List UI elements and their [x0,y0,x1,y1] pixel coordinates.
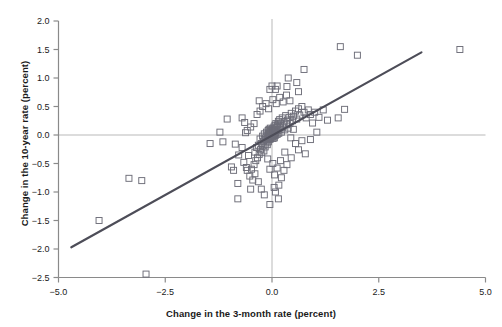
y-tick-label: 0.5 [37,102,50,112]
scatter-plot-figure: −2.5−2.0−1.5−1.0−0.50.00.51.01.52.0 −5.0… [0,0,502,327]
data-point-marker [256,98,262,104]
y-tick-label: −1.0 [32,187,50,197]
y-tick-label: 0.0 [37,130,50,140]
data-point-marker [294,80,300,86]
data-point-marker [261,192,267,198]
data-point-marker [301,66,307,72]
data-point-marker [139,178,145,184]
data-point-marker [457,47,463,53]
data-point-marker [305,107,311,113]
data-point-marker [285,75,291,81]
plot-canvas: −2.5−2.0−1.5−1.0−0.50.00.51.01.52.0 −5.0… [0,0,502,327]
data-point-marker [284,84,290,90]
y-tick-label: −2.0 [32,244,50,254]
data-point-marker [235,196,241,202]
x-tick-label: 2.5 [372,287,385,297]
data-point-marker [235,180,241,186]
data-point-marker [342,106,348,112]
y-tick-label: 2.0 [37,16,50,26]
y-tick-label: −0.5 [32,159,50,169]
data-point-marker [217,129,223,135]
data-point-marker [335,115,341,121]
data-point-marker [299,138,305,144]
x-axis-label: Change in the 3-month rate (percent) [0,308,502,319]
data-point-marker [295,89,301,95]
data-point-marker [143,271,149,277]
x-axis-ticks: −5.0−2.50.02.55.0 [50,278,492,297]
data-point-marker [278,158,284,164]
data-point-marker [220,139,226,145]
data-point-marker [284,92,290,98]
data-point-marker [287,98,293,104]
data-point-marker [281,167,287,173]
x-tick-label: 0.0 [266,287,279,297]
data-point-marker [96,218,102,224]
data-point-marker [307,137,313,143]
data-point-marker [126,175,132,181]
data-point-marker [275,196,281,202]
data-point-marker [310,120,316,126]
y-tick-label: 1.5 [37,45,50,55]
data-point-marker [239,145,245,151]
data-point-marker [302,151,308,157]
y-tick-label: −2.5 [32,273,50,283]
trendline [71,52,421,247]
y-axis-label: Change in the 10-year rate (percent) [19,24,30,264]
data-point-marker [246,153,252,159]
data-point-marker [207,141,213,147]
x-tick-label: −5.0 [50,287,68,297]
y-tick-label: −1.5 [32,216,50,226]
x-tick-label: −2.5 [156,287,174,297]
data-point-marker [282,149,288,155]
data-point-marker [337,44,343,50]
data-point-marker [258,186,264,192]
y-tick-label: 1.0 [37,73,50,83]
data-point-marker [224,116,230,122]
data-point-marker [325,117,331,123]
data-point-marker [288,135,294,141]
data-point-marker [354,52,360,58]
data-point-marker [288,155,294,161]
zero-reference-lines [59,19,486,278]
data-point-marker [278,175,284,181]
data-point-marker [292,141,298,147]
data-point-marker [295,147,301,153]
data-point-marker [232,141,238,147]
x-tick-label: 5.0 [479,287,492,297]
data-points-group [96,44,463,277]
data-point-marker [248,186,254,192]
y-axis-ticks: −2.5−2.0−1.5−1.0−0.50.00.51.01.52.0 [32,16,59,283]
data-point-marker [284,162,290,168]
data-point-marker [314,129,320,135]
regression-line [71,52,421,247]
data-point-marker [274,165,280,171]
